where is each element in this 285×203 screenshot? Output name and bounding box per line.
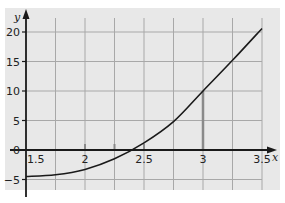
y-tick-label: 10 <box>6 85 20 98</box>
y-tick-label: 15 <box>6 56 20 69</box>
x-tick-label: 2 <box>82 153 89 166</box>
y-tick-label: −5 <box>4 174 20 187</box>
x-tick-label: 3 <box>200 153 207 166</box>
x-tick-label: 2.5 <box>135 153 153 166</box>
chart: −5051015201.522.533.5yx <box>0 0 285 203</box>
x-tick-label: 1.5 <box>27 153 45 166</box>
x-axis-label: x <box>272 151 279 164</box>
x-tick-label: 3.5 <box>253 153 271 166</box>
y-axis-label: y <box>13 11 21 24</box>
y-tick-label: 0 <box>13 144 20 157</box>
y-tick-label: 20 <box>6 26 20 39</box>
y-tick-label: 5 <box>13 115 20 128</box>
